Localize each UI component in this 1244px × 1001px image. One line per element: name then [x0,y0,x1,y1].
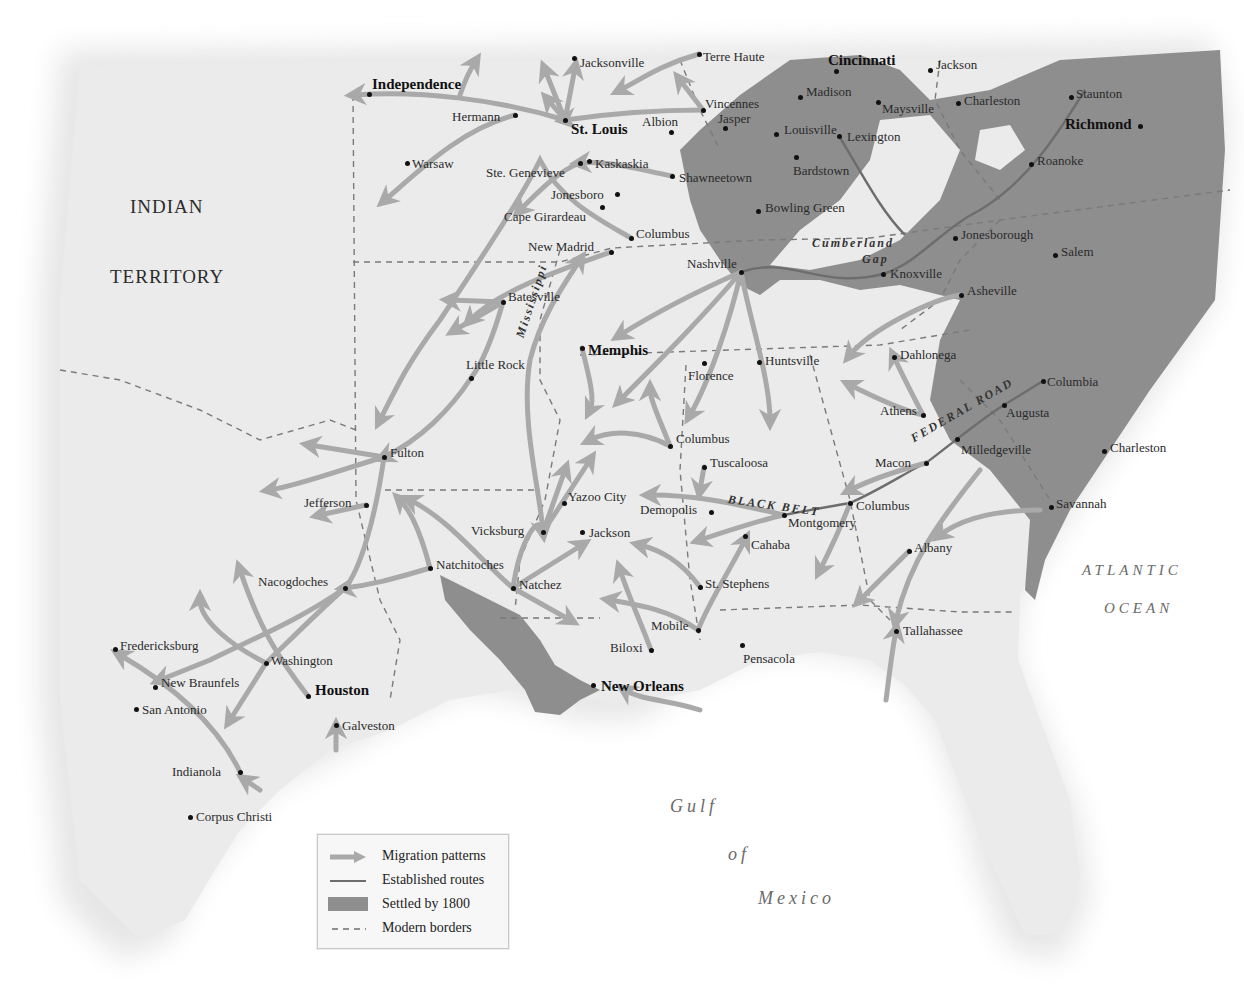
city-label: Pensacola [743,652,795,665]
city-label: Dahlonega [900,348,956,361]
region-label: INDIAN [130,196,204,218]
city-label: Tallahassee [903,624,963,637]
route-label: Cumberland [812,236,894,251]
city-marker-icon [334,723,339,728]
city-label: Charleston [964,94,1020,107]
city-marker-icon [670,174,675,179]
city-label: Fulton [390,446,424,459]
city-label: Bardstown [793,164,849,177]
city-label: St. Stephens [705,577,769,590]
city-label: Vincennes [705,97,759,110]
city-label: Roanoke [1037,154,1083,167]
city-label: Charleston [1110,441,1166,454]
city-marker-icon [723,126,728,131]
city-marker-icon [881,272,886,277]
water-body-label: ATLANTIC [1082,562,1182,579]
city-label: Richmond [1065,117,1132,132]
city-marker-icon [306,694,311,699]
water-body-label: Mexico [758,888,835,909]
city-label: Louisville [784,123,837,136]
city-marker-icon [615,192,620,197]
city-label: Washington [271,654,333,667]
city-label: Tuscaloosa [710,456,768,469]
city-label: Jacksonville [580,56,644,69]
city-label: Hermann [452,110,500,123]
city-marker-icon [955,437,960,442]
route-label: Gap [862,252,889,267]
region-label: TERRITORY [110,266,224,288]
city-marker-icon [629,236,634,241]
city-label: Madison [806,85,852,98]
city-label: Little Rock [466,358,525,371]
city-marker-icon [834,69,839,74]
city-marker-icon [774,132,779,137]
city-label: Huntsville [765,354,819,367]
city-marker-icon [740,643,745,648]
city-label: Lexington [847,130,900,143]
city-label: Athens [880,404,917,417]
city-marker-icon [1102,449,1107,454]
city-label: Florence [688,369,733,382]
city-marker-icon [892,355,897,360]
city-label: Terre Haute [703,50,765,63]
city-marker-icon [696,628,701,633]
city-label: Columbus [676,432,729,445]
city-marker-icon [541,530,546,535]
city-label: Biloxi [610,641,643,654]
city-marker-icon [364,503,369,508]
city-label: Columbia [1047,375,1098,388]
legend-item-migration: Migration patterns [328,845,486,867]
city-label: Demopolis [640,503,697,516]
city-label: Natchitoches [436,558,504,571]
city-label: Maysville [882,102,934,115]
city-label: Ste. Genevieve [486,166,565,179]
city-marker-icon [848,501,853,506]
city-marker-icon [600,205,605,210]
city-label: Natchez [519,578,562,591]
route-line-icon [328,873,368,887]
city-label: Shawneetown [679,171,752,184]
city-label: Staunton [1076,87,1122,100]
map-legend: Migration patterns Established routes Se… [317,834,509,949]
city-marker-icon [511,586,516,591]
city-marker-icon [562,501,567,506]
legend-item-settled: Settled by 1800 [328,893,470,915]
city-label: Jasper [718,112,751,125]
city-marker-icon [405,161,410,166]
legend-label: Migration patterns [382,848,486,864]
city-label: Jonesboro [551,188,604,201]
city-label: Houston [315,683,369,698]
city-label: Yazoo City [568,490,626,503]
city-label: Nashville [687,257,737,270]
city-marker-icon [591,683,596,688]
city-marker-icon [609,250,614,255]
legend-label: Settled by 1800 [382,896,470,912]
city-label: Macon [875,456,911,469]
city-label: St. Louis [571,122,628,137]
city-marker-icon [649,648,654,653]
city-label: Nacogdoches [258,575,328,588]
city-label: New Orleans [601,679,684,694]
city-marker-icon [709,510,714,515]
city-label: Vicksburg [471,524,524,537]
city-marker-icon [668,444,673,449]
city-label: Cahaba [751,538,790,551]
city-marker-icon [1069,95,1074,100]
city-marker-icon [382,455,387,460]
city-label: Augusta [1006,406,1049,419]
city-marker-icon [697,52,702,57]
city-label: Knoxville [890,267,942,280]
city-marker-icon [876,100,881,105]
city-label: Fredericksburg [120,639,198,652]
city-label: New Madrid [528,240,594,253]
city-marker-icon [580,530,585,535]
city-marker-icon [894,629,899,634]
city-label: San Antonio [142,703,207,716]
dashed-border-icon [328,921,368,935]
city-label: Memphis [588,343,648,358]
city-marker-icon [907,549,912,554]
water-body-label: Gulf [670,796,718,817]
city-marker-icon [669,130,674,135]
city-marker-icon [1041,379,1046,384]
city-label: Independence [372,77,461,92]
